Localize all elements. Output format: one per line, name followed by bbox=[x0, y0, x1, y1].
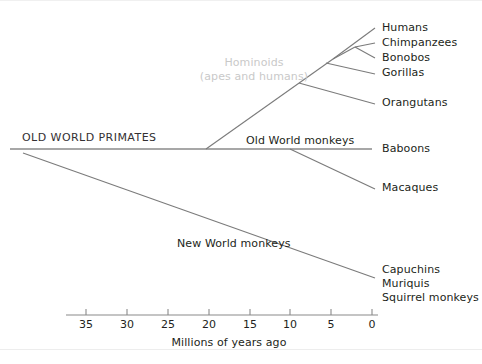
clade-annotation-line2: (apes and humans) bbox=[186, 70, 322, 84]
axis-tick-label-10: 10 bbox=[283, 319, 297, 331]
tip-label-capuchins: Capuchins bbox=[382, 264, 440, 276]
axis-tick-label-20: 20 bbox=[202, 319, 216, 331]
branch-chimpanzees bbox=[355, 43, 375, 47]
root-label-old-world-primates: OLD WORLD PRIMATES bbox=[22, 132, 156, 144]
axis-tick-label-30: 30 bbox=[120, 319, 134, 331]
tip-label-muriquis: Muriquis bbox=[382, 278, 430, 290]
tip-label-humans: Humans bbox=[382, 22, 428, 34]
group-label-old-world-monkeys: Old World monkeys bbox=[246, 135, 354, 147]
tip-label-chimpanzees: Chimpanzees bbox=[382, 37, 457, 49]
axis-tick-label-5: 5 bbox=[327, 319, 334, 331]
tip-label-orangutans: Orangutans bbox=[382, 97, 448, 109]
branch-orangutans bbox=[299, 83, 375, 104]
group-label-new-world-monkeys: New World monkeys bbox=[177, 238, 291, 250]
branch-pan-trunk bbox=[333, 47, 355, 59]
axis-tick-label-0: 0 bbox=[368, 319, 375, 331]
tip-label-macaques: Macaques bbox=[382, 182, 438, 194]
tip-label-squirrel-monkeys: Squirrel monkeys bbox=[382, 292, 479, 304]
axis-tick-label-15: 15 bbox=[243, 319, 257, 331]
tip-label-baboons: Baboons bbox=[382, 143, 430, 155]
tip-label-gorillas: Gorillas bbox=[382, 67, 424, 79]
branch-bonobos bbox=[355, 47, 375, 58]
branch-gorillas bbox=[326, 63, 375, 74]
axis-ticks bbox=[86, 309, 372, 315]
phylogenetic-tree-figure: OLD WORLD PRIMATES Hominoids (apes and h… bbox=[0, 0, 482, 364]
clade-annotation-line1: Hominoids bbox=[196, 56, 312, 70]
axis-tick-label-25: 25 bbox=[161, 319, 175, 331]
branch-macaques bbox=[290, 149, 375, 189]
axis-tick-label-35: 35 bbox=[79, 319, 93, 331]
branch-new-world-monkeys bbox=[23, 153, 375, 278]
tip-label-bonobos: Bonobos bbox=[382, 52, 430, 64]
axis-title-x: Millions of years ago bbox=[171, 337, 286, 349]
